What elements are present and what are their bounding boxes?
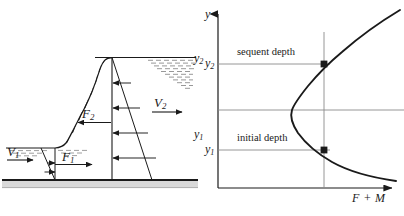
annotation-sequent-depth: sequent depth [237, 47, 295, 58]
upstream-pressure-distribution [41, 148, 55, 180]
left-diagram-y1-label: y1 [194, 128, 203, 142]
pressure-hypotenuse-1 [41, 148, 55, 180]
bed-fill [2, 181, 198, 188]
channel-bed [2, 180, 198, 188]
force-F1-label: F1 [62, 150, 74, 165]
roller-blob [72, 124, 76, 133]
figure-canvas: V1 F1 F2 V2 y2 y1 y F + M y2 y1 sequent … [0, 0, 404, 216]
downstream-surface-hatching [148, 60, 195, 88]
tick-label-y1: y1 [205, 143, 214, 157]
figure-vector-layer [0, 0, 404, 216]
sequent-depth-point-marker [321, 61, 328, 68]
left-diagram-group [2, 58, 198, 188]
y-axis-label: y [205, 8, 210, 20]
left-diagram-y2-label: y2 [194, 52, 203, 66]
tick-label-y2: y2 [205, 57, 214, 71]
initial-depth-point-marker [321, 147, 328, 154]
specific-force-curve [291, 10, 400, 181]
roller-blob [66, 136, 69, 143]
hydraulic-jump-profile [55, 58, 112, 149]
velocity-V1-label: V1 [7, 145, 19, 160]
specific-force-chart-group [218, 10, 404, 188]
force-F2-label: F2 [82, 107, 94, 122]
downstream-pressure-distribution [112, 58, 156, 181]
pressure-hypotenuse-2 [112, 58, 152, 181]
velocity-V2-label: V2 [154, 96, 166, 111]
x-axis-label: F + M [352, 192, 385, 204]
jump-surface-curve [55, 58, 112, 149]
annotation-initial-depth: initial depth [237, 133, 287, 144]
